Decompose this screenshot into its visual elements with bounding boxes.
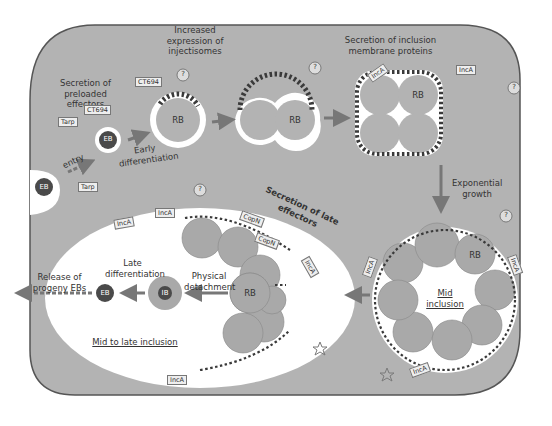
label-injectisomes: Increased expression of injectisomes [165, 25, 225, 57]
rb-label: RB [240, 288, 260, 299]
label-late-diff: Late differentiation [105, 258, 160, 279]
diagram-graphics [0, 0, 552, 426]
eb-label: EB [34, 183, 54, 192]
unknown-effector: ? [509, 83, 519, 92]
ct694-effector: CT694 [84, 105, 111, 115]
rb-label: RB [465, 250, 485, 261]
rb-label: RB [285, 115, 305, 126]
unknown-effector: ? [195, 185, 205, 194]
eb-label: EB [95, 289, 115, 298]
tarp-effector: Tarp [78, 182, 98, 192]
inca-effector: IncA [167, 375, 187, 385]
inca-effector: IncA [155, 208, 175, 218]
tarp-effector: Tarp [58, 117, 78, 127]
unknown-effector: ? [310, 63, 320, 72]
label-exponential: Exponential growth [452, 178, 502, 199]
inca-effector: IncA [456, 65, 476, 75]
label-mid-inclusion: Mid inclusion [420, 288, 470, 309]
eb-label: EB [98, 135, 118, 144]
rb-label: RB [168, 115, 188, 126]
label-release: Release of progeny EBs [32, 272, 87, 293]
rb-label: RB [408, 90, 428, 101]
ct694-effector: CT694 [135, 77, 162, 87]
diagram: Increased expression of injectisomes Sec… [0, 0, 552, 426]
label-secretion-inc: Secretion of inclusion membrane proteins [338, 35, 443, 56]
label-physical-detach: Physical detachment [184, 271, 234, 292]
ib-label: IB [155, 289, 175, 298]
unknown-effector: ? [178, 70, 188, 79]
label-mid-late-inclusion: Mid to late inclusion [85, 337, 185, 348]
unknown-effector: ? [501, 211, 511, 220]
